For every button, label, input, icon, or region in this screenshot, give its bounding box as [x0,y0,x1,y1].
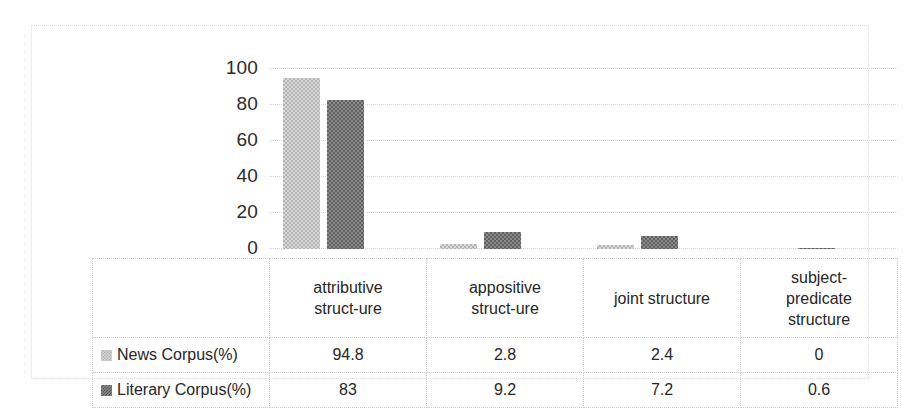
bar-news-corpus-attributive[interactable] [283,78,320,249]
chart-frame: 100 80 60 40 20 0 [31,25,869,379]
y-tick-label: 60 [198,130,258,149]
bar-literary-corpus-appositive[interactable] [484,232,521,249]
category-header-subject-predicate-structure: subject- predicate structure [741,259,898,338]
category-label-line: attributive [270,277,426,298]
category-label-line: predicate [741,288,897,309]
data-table: attributive struct-ure appositive struct… [92,258,898,408]
category-label-line: appositive [427,277,583,298]
y-tick-label: 40 [198,166,258,185]
y-tick-label: 20 [198,202,258,221]
cell-news-subject-predicate: 0 [741,338,898,373]
table-row-news-corpus: News Corpus(%) 94.8 2.8 2.4 0 [93,338,898,373]
y-axis: 100 80 60 40 20 0 [192,68,258,249]
legend-label-literary-corpus: Literary Corpus(%) [117,381,251,398]
legend-label-news-corpus: News Corpus(%) [117,346,238,363]
category-label-line: joint structure [584,288,740,309]
cell-literary-subject-predicate: 0.6 [741,373,898,408]
bar-group-attributive-structure [269,68,426,249]
legend-swatch-icon [101,385,112,396]
bar-literary-corpus-subject-predicate[interactable] [798,248,835,249]
bar-group-appositive-structure [426,68,583,249]
table-header-row: attributive struct-ure appositive struct… [93,259,898,338]
legend-item-literary-corpus[interactable]: Literary Corpus(%) [93,373,270,408]
category-label-line: struct-ure [270,298,426,319]
bar-group-subject-predicate-structure [740,68,897,249]
table-row-literary-corpus: Literary Corpus(%) 83 9.2 7.2 0.6 [93,373,898,408]
bar-literary-corpus-joint[interactable] [641,236,678,249]
cell-news-attributive: 94.8 [270,338,427,373]
category-header-joint-structure: joint structure [584,259,741,338]
category-label-line: subject- [741,267,897,288]
cell-literary-joint: 7.2 [584,373,741,408]
bar-group-joint-structure [583,68,740,249]
bar-literary-corpus-attributive[interactable] [327,100,364,249]
y-tick-label: 100 [198,58,258,77]
cell-literary-attributive: 83 [270,373,427,408]
table-corner-cell [93,259,270,338]
legend-swatch-icon [101,350,112,361]
legend-item-news-corpus[interactable]: News Corpus(%) [93,338,270,373]
plot-area [269,68,898,249]
y-tick-label: 80 [198,94,258,113]
category-header-attributive-structure: attributive struct-ure [270,259,427,338]
cell-news-appositive: 2.8 [427,338,584,373]
cell-literary-appositive: 9.2 [427,373,584,408]
category-label-line: structure [741,309,897,330]
category-header-appositive-structure: appositive struct-ure [427,259,584,338]
bar-news-corpus-appositive[interactable] [440,244,477,249]
y-tick-label: 0 [198,238,258,257]
cell-news-joint: 2.4 [584,338,741,373]
bar-news-corpus-joint[interactable] [597,245,634,249]
category-label-line: struct-ure [427,298,583,319]
